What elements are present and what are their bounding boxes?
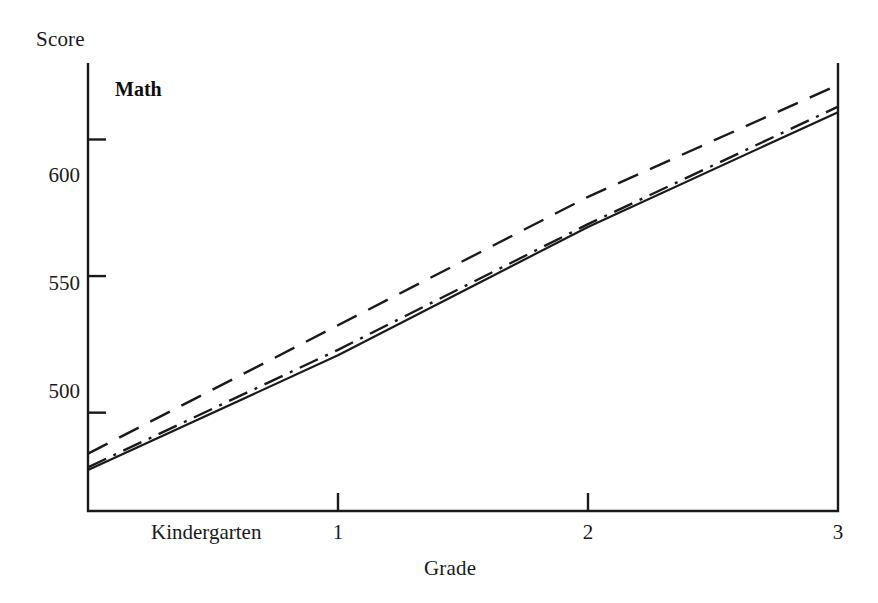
data-series-group bbox=[88, 85, 838, 470]
series-dash-dot-line bbox=[88, 107, 838, 468]
axis-frame bbox=[88, 63, 838, 511]
y-tick-marks bbox=[88, 139, 106, 412]
series-solid-line bbox=[88, 112, 838, 470]
x-tick-marks bbox=[338, 493, 588, 511]
series-dashed-line bbox=[88, 85, 838, 454]
axis-spines bbox=[88, 63, 838, 511]
plot-area bbox=[0, 0, 878, 603]
math-score-line-chart: Score Math 600 550 500 Kindergarten 1 2 … bbox=[0, 0, 878, 603]
